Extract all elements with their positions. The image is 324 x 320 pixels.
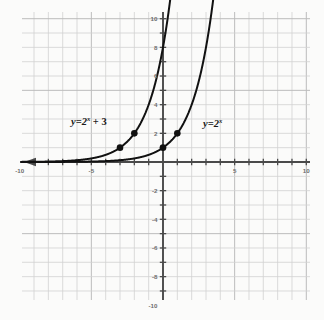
coordinate-plane: -10-5510108642-2-4-6-8-10: [0, 0, 324, 320]
y-tick-label: 8: [154, 44, 158, 51]
y-tick-label: -4: [152, 216, 158, 223]
data-point-marker: [131, 130, 138, 137]
y-tick-label: -10: [149, 302, 159, 309]
data-point-marker: [160, 144, 167, 151]
data-point-marker: [117, 144, 124, 151]
y-tick-label: -8: [152, 273, 158, 280]
x-tick-label: -10: [15, 167, 25, 174]
y-tick-label: 10: [151, 15, 158, 22]
x-tick-label: -5: [89, 167, 95, 174]
x-tick-label: 5: [233, 167, 237, 174]
y-tick-label: -2: [152, 187, 158, 194]
data-point-marker: [174, 130, 181, 137]
y-tick-label: 4: [154, 101, 158, 108]
x-tick-label: 10: [303, 167, 310, 174]
y-tick-label: 2: [154, 130, 158, 137]
y-tick-label: 6: [154, 72, 158, 79]
y-tick-label: -6: [152, 244, 158, 251]
graph-canvas: -10-5510108642-2-4-6-8-10 y=2x + 3 y=2x: [0, 0, 324, 320]
